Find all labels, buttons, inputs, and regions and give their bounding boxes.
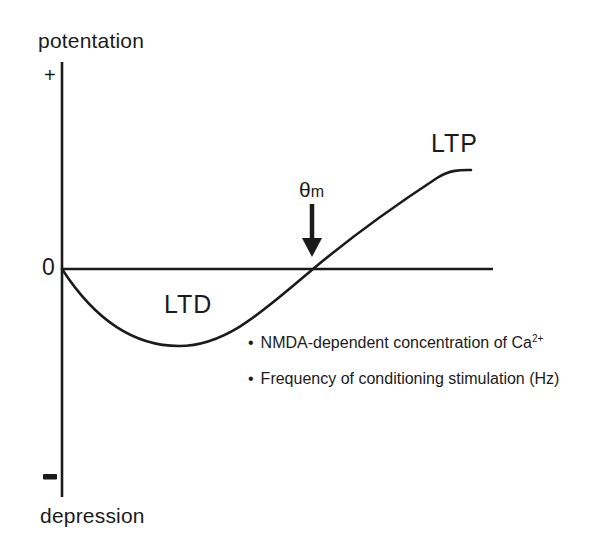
- y-axis-zero-tick-label: 0: [42, 256, 55, 279]
- y-axis-plus-tick-label: +: [44, 65, 56, 85]
- y-axis-positive-caption: potentation: [38, 30, 144, 51]
- bcm-plasticity-figure: potentation depression + 0 LTD LTP θm •N…: [0, 0, 599, 558]
- ca-superscript: 2+: [532, 333, 543, 344]
- x-axis-meaning-list: •NMDA-dependent concentration of Ca2+ •F…: [248, 333, 559, 405]
- list-item: •Frequency of conditioning stimulation (…: [248, 369, 559, 388]
- theta-glyph: θ: [299, 178, 311, 201]
- plot-canvas: [0, 0, 599, 558]
- bullet-icon: •: [248, 333, 254, 352]
- ltp-label: LTP: [431, 131, 478, 156]
- bullet-text-frequency: Frequency of conditioning stimulation (H…: [261, 370, 560, 387]
- bullet-icon: •: [248, 369, 254, 388]
- threshold-theta-m-label: θm: [299, 179, 324, 200]
- bullet-text-ca: NMDA-dependent concentration of Ca: [261, 334, 532, 351]
- theta-subscript: m: [311, 183, 324, 200]
- plasticity-curve: [62, 170, 471, 346]
- minus-tick: [43, 474, 57, 480]
- threshold-arrowhead-icon: [302, 238, 322, 257]
- ltd-label: LTD: [164, 292, 212, 317]
- list-item: •NMDA-dependent concentration of Ca2+: [248, 333, 559, 352]
- y-axis-negative-caption: depression: [40, 505, 145, 526]
